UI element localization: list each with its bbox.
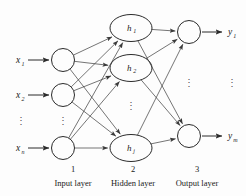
neuron-label-h2: h xyxy=(127,63,132,73)
neural-network-diagram: ⋮1Input layerh1h2hj⋮2Hidden layer⋮3Outpu… xyxy=(0,0,246,196)
input-label-2: x xyxy=(15,143,21,153)
neuron-subscript-h2: 2 xyxy=(133,68,136,74)
labels-group: ⋮1Input layerh1h2hj⋮2Hidden layer⋮3Outpu… xyxy=(15,23,238,188)
layer-number-2: 2 xyxy=(131,164,135,174)
output-label-0: y xyxy=(227,27,233,37)
nodes-group xyxy=(52,15,201,162)
neuron-subscript-hj: j xyxy=(132,148,135,154)
neuron-node-out2 xyxy=(178,125,201,148)
input-label-0: x xyxy=(15,55,21,65)
input-ellipsis: ⋮ xyxy=(16,115,26,126)
connection-edge xyxy=(70,69,120,134)
input-subscript-0: 1 xyxy=(22,61,25,67)
input-subscript-2: n xyxy=(22,149,25,155)
connection-edge xyxy=(151,139,176,144)
connection-edge xyxy=(141,80,180,126)
edges-input-to-hidden xyxy=(69,37,123,148)
io-arrows xyxy=(28,32,222,148)
network-svg: ⋮1Input layerh1h2hj⋮2Hidden layer⋮3Outpu… xyxy=(0,0,246,196)
neuron-label-hj: h xyxy=(127,143,132,153)
neuron-node-in1 xyxy=(52,49,75,72)
output-subscript-1: m xyxy=(233,137,238,143)
input-label-1: x xyxy=(15,90,21,100)
connection-edge xyxy=(146,39,177,58)
neuron-node-in3 xyxy=(52,137,75,160)
neuron-node-in2 xyxy=(52,84,75,107)
layer-ellipsis-2: ⋮ xyxy=(126,100,136,111)
edges-hidden-to-output xyxy=(137,29,182,143)
connection-edge xyxy=(152,29,175,31)
neuron-subscript-h1: 1 xyxy=(133,28,136,34)
layer-name-2: Hidden layer xyxy=(111,178,155,188)
connection-edge xyxy=(69,43,123,138)
output-ellipsis: ⋮ xyxy=(227,77,237,88)
layer-ellipsis-1: ⋮ xyxy=(58,115,68,126)
neuron-node-out1 xyxy=(178,21,201,44)
connection-edge xyxy=(70,82,119,140)
layer-ellipsis-3: ⋮ xyxy=(184,77,194,88)
connection-edge xyxy=(72,102,116,136)
neuron-label-h1: h xyxy=(127,23,132,33)
layer-name-3: Output layer xyxy=(176,178,219,188)
connection-edge xyxy=(74,61,108,65)
connection-edge xyxy=(74,76,111,91)
input-subscript-1: 2 xyxy=(22,96,25,102)
layer-name-1: Input layer xyxy=(54,178,91,188)
connection-edge xyxy=(138,41,183,124)
output-subscript-0: 1 xyxy=(233,33,236,39)
layer-number-1: 1 xyxy=(71,164,75,174)
output-label-1: y xyxy=(227,131,233,141)
layer-number-3: 3 xyxy=(195,164,199,174)
